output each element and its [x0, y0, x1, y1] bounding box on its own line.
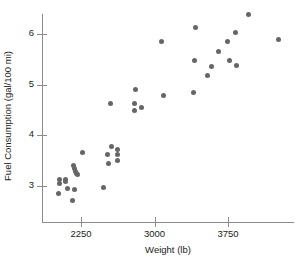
- data-point: [139, 105, 144, 110]
- data-point: [216, 49, 221, 54]
- y-axis-line: [42, 14, 43, 222]
- data-point: [70, 198, 75, 203]
- x-tick-label-3000: 3000: [135, 228, 175, 239]
- data-point: [115, 152, 120, 157]
- scatter-plot: Fuel Consumption (gal/100 mi) Weight (lb…: [0, 0, 302, 269]
- x-tick-3750: [228, 217, 229, 227]
- data-point: [101, 185, 106, 190]
- data-point: [161, 93, 166, 98]
- data-point: [109, 144, 114, 149]
- data-point: [115, 158, 120, 163]
- y-axis-title: Fuel Consumption (gal/100 mi): [0, 10, 16, 222]
- data-point: [108, 101, 113, 106]
- data-point: [193, 25, 198, 30]
- x-tick-2250: [81, 217, 82, 227]
- data-point: [227, 58, 232, 63]
- y-tick-label-5: 5: [16, 78, 34, 89]
- y-tick-6: [37, 34, 47, 35]
- x-axis-title: Weight (lb): [42, 244, 294, 255]
- data-point: [80, 150, 85, 155]
- y-tick-label-4: 4: [16, 128, 34, 139]
- y-tick-4: [37, 135, 47, 136]
- data-point: [225, 39, 230, 44]
- y-tick-3: [37, 186, 47, 187]
- data-point: [133, 87, 138, 92]
- data-point: [56, 191, 61, 196]
- data-point: [191, 90, 196, 95]
- data-point: [65, 186, 70, 191]
- data-point: [105, 152, 110, 157]
- y-tick-label-6: 6: [16, 27, 34, 38]
- data-point: [192, 58, 197, 63]
- x-axis-line: [42, 222, 294, 223]
- data-point: [246, 12, 251, 17]
- data-point: [205, 73, 210, 78]
- data-point: [233, 30, 238, 35]
- data-point: [106, 161, 111, 166]
- data-point: [276, 37, 281, 42]
- data-point: [132, 108, 137, 113]
- x-tick-3000: [155, 217, 156, 227]
- x-tick-label-3750: 3750: [208, 228, 248, 239]
- data-point: [75, 172, 80, 177]
- data-point: [159, 39, 164, 44]
- data-point: [72, 187, 77, 192]
- x-tick-label-2250: 2250: [61, 228, 101, 239]
- y-tick-label-3: 3: [16, 179, 34, 190]
- data-point: [63, 179, 68, 184]
- data-point: [234, 63, 239, 68]
- y-tick-5: [37, 85, 47, 86]
- data-point: [209, 64, 214, 69]
- data-point: [57, 181, 62, 186]
- data-point: [132, 101, 137, 106]
